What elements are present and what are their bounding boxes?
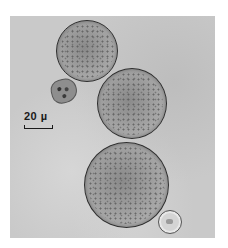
large-cell-bottom (84, 142, 169, 228)
scale-bar-label: 20 µ (24, 110, 54, 122)
small-ring-cell (158, 210, 182, 234)
scale-bar: 20 µ (24, 110, 54, 129)
large-cell-middle (97, 68, 167, 139)
large-cell-top (56, 20, 118, 82)
scale-bar-line (24, 125, 53, 129)
